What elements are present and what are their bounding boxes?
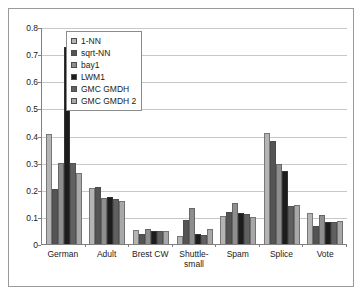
bar (337, 221, 343, 244)
bar (250, 217, 256, 244)
legend-swatch-icon (71, 38, 77, 44)
x-axis-label: German (41, 249, 85, 283)
x-axis-labels: GermanAdultBrest CWShuttle-​smallSpamSpl… (41, 249, 347, 283)
legend-item-label: LWM1 (81, 73, 105, 82)
legend-item-label: sqrt-NN (81, 49, 110, 58)
legend-item[interactable]: 1-NN (71, 35, 136, 47)
legend-item[interactable]: LWM1 (71, 71, 136, 83)
bar (119, 201, 125, 244)
x-tick-mark (346, 244, 347, 247)
bar-group (173, 28, 217, 244)
y-tick-label: 0.8 (4, 24, 38, 33)
y-tick-label: 0.7 (4, 51, 38, 60)
x-axis-label: Shuttle-​small (172, 249, 216, 283)
legend-swatch-icon (71, 86, 77, 92)
bar (163, 231, 169, 244)
y-tick-label: 0.6 (4, 78, 38, 87)
chart-figure: 0.80.70.60.50.40.30.20.10 GermanAdultBre… (0, 0, 364, 299)
legend-item[interactable]: GMC GMDH 2 (71, 95, 136, 107)
x-axis-label: Splice (260, 249, 304, 283)
x-axis-label: Vote (303, 249, 347, 283)
y-tick-label: 0.4 (4, 132, 38, 141)
bar (207, 229, 213, 244)
x-axis-label: Spam (216, 249, 260, 283)
legend-item-label: 1-NN (81, 37, 101, 46)
chart-legend: 1-NNsqrt-NNbay1LWM1GMC GMDHGMC GMDH 2 (66, 31, 142, 111)
legend-item-label: GMC GMDH 2 (81, 97, 136, 106)
x-tick-mark (302, 244, 303, 247)
bar-group (303, 28, 347, 244)
legend-swatch-icon (71, 98, 77, 104)
x-tick-mark (85, 244, 86, 247)
y-tick-label: 0.1 (4, 214, 38, 223)
x-axis-label: Brest CW (128, 249, 172, 283)
legend-item[interactable]: GMC GMDH (71, 83, 136, 95)
x-tick-mark (172, 244, 173, 247)
bar-group (260, 28, 304, 244)
x-tick-mark (259, 244, 260, 247)
y-tick-label: 0.5 (4, 105, 38, 114)
x-axis-label: Adult (85, 249, 129, 283)
legend-item[interactable]: sqrt-NN (71, 47, 136, 59)
x-tick-mark (215, 244, 216, 247)
legend-swatch-icon (71, 62, 77, 68)
y-tick-label: 0.3 (4, 159, 38, 168)
legend-item-label: bay1 (81, 61, 99, 70)
bar (76, 173, 82, 244)
legend-swatch-icon (71, 74, 77, 80)
bar (294, 205, 300, 244)
y-tick-mark (38, 245, 41, 246)
bar-group (216, 28, 260, 244)
y-tick-label: 0.2 (4, 187, 38, 196)
legend-item[interactable]: bay1 (71, 59, 136, 71)
y-tick-label: 0 (4, 241, 38, 250)
legend-swatch-icon (71, 50, 77, 56)
x-tick-mark (128, 244, 129, 247)
legend-item-label: GMC GMDH (81, 85, 129, 94)
y-axis: 0.80.70.60.50.40.30.20.10 (0, 28, 38, 245)
